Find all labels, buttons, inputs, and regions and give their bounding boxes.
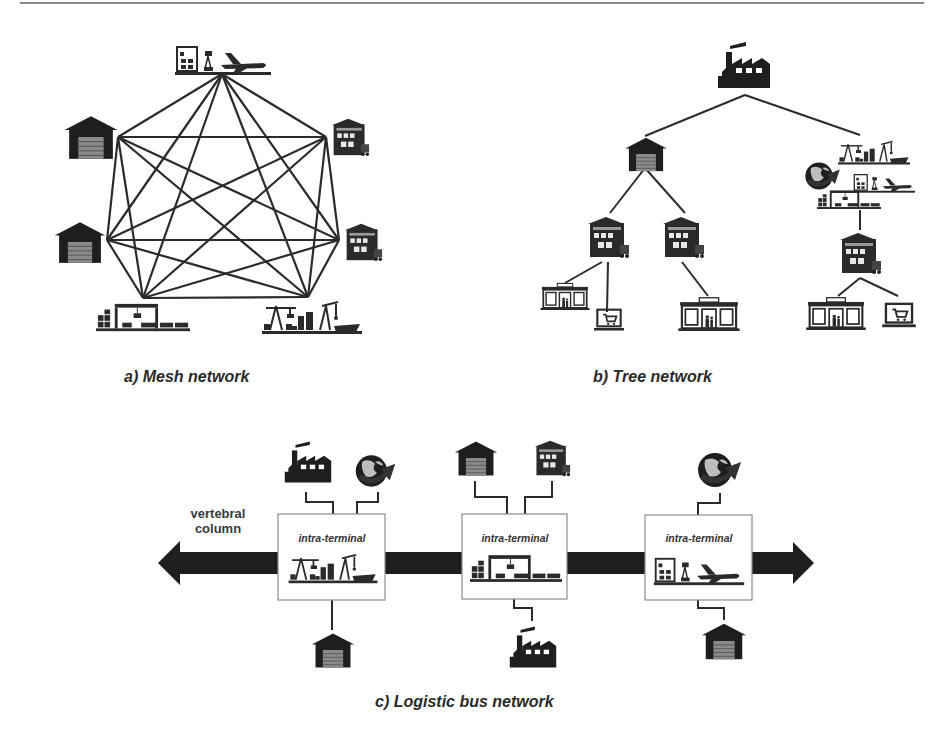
globe-icon bbox=[698, 453, 741, 487]
bus-network-panel bbox=[158, 441, 814, 668]
mesh-edge bbox=[118, 137, 339, 240]
rail-terminal-icon bbox=[817, 190, 881, 209]
mesh-network-panel bbox=[55, 47, 382, 334]
warehouse-icon bbox=[55, 222, 106, 263]
mesh-edge bbox=[222, 74, 339, 240]
terminal-label: intra-terminal bbox=[279, 532, 385, 544]
mesh-edge bbox=[222, 74, 326, 137]
factory-icon bbox=[285, 441, 331, 482]
seaport-icon bbox=[262, 302, 362, 334]
intra-terminal-box bbox=[645, 515, 752, 600]
mesh-edges bbox=[107, 74, 339, 298]
retail-store-icon bbox=[678, 298, 739, 331]
terminal-label: intra-terminal bbox=[646, 532, 752, 544]
distribution-center-icon bbox=[588, 217, 629, 258]
retail-store-icon bbox=[806, 298, 866, 330]
globe-icon bbox=[356, 455, 396, 486]
mesh-edge bbox=[222, 74, 308, 297]
spine-label-line2: column bbox=[178, 521, 258, 536]
tree-network-panel bbox=[541, 42, 916, 331]
mesh-edge bbox=[118, 74, 222, 137]
airport-terminal-icon bbox=[175, 47, 271, 75]
distribution-center-icon bbox=[840, 233, 881, 274]
mesh-edge bbox=[143, 297, 308, 298]
distribution-center-icon bbox=[535, 441, 570, 476]
spine-label-line1: vertebral bbox=[178, 506, 258, 521]
distribution-center-icon bbox=[332, 119, 369, 156]
factory-icon bbox=[718, 42, 770, 88]
warehouse-icon bbox=[312, 633, 354, 667]
warehouse-icon bbox=[65, 116, 118, 159]
e-commerce-laptop-icon bbox=[594, 310, 624, 331]
airport-terminal-icon bbox=[853, 175, 915, 193]
intra-terminal-box bbox=[462, 514, 567, 599]
mesh-edge bbox=[107, 137, 326, 240]
distribution-center-icon bbox=[345, 224, 382, 261]
factory-icon bbox=[510, 626, 556, 667]
e-commerce-laptop-icon bbox=[882, 304, 916, 327]
retail-store-icon bbox=[541, 283, 590, 310]
seaport-icon bbox=[838, 141, 910, 164]
distribution-center-icon bbox=[663, 217, 704, 258]
rail-terminal-icon bbox=[96, 304, 190, 331]
globe-icon bbox=[805, 162, 839, 189]
warehouse-icon bbox=[625, 138, 666, 171]
panel-b-caption: b) Tree network bbox=[593, 368, 712, 386]
warehouse-icon bbox=[455, 441, 497, 475]
spine-label: vertebral column bbox=[178, 506, 258, 536]
warehouse-icon bbox=[702, 624, 746, 660]
intra-terminal-box bbox=[278, 514, 385, 600]
terminal-label: intra-terminal bbox=[462, 532, 568, 544]
panel-c-caption: c) Logistic bus network bbox=[375, 693, 554, 711]
mesh-edge bbox=[118, 137, 308, 297]
mesh-edge bbox=[107, 74, 222, 240]
panel-a-caption: a) Mesh network bbox=[124, 368, 249, 386]
